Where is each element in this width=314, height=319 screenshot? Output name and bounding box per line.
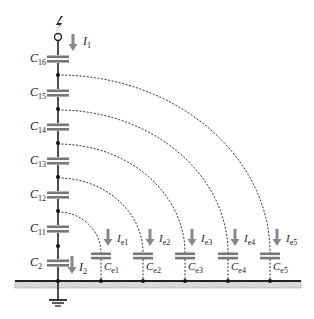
label-i1: I1 bbox=[82, 34, 91, 50]
node-dot bbox=[56, 279, 60, 283]
label-ce2: Ce2 bbox=[146, 260, 161, 275]
label-ie4: Ie4 bbox=[243, 232, 255, 247]
capacitor-c15 bbox=[47, 89, 69, 97]
capacitor-c12 bbox=[47, 191, 69, 199]
node-dot bbox=[268, 279, 272, 283]
label-c12: C12 bbox=[30, 187, 46, 203]
label-ce1: Ce1 bbox=[104, 260, 119, 275]
node-dot bbox=[56, 244, 60, 248]
capacitor-c14 bbox=[47, 123, 69, 131]
current-arrow-ie2 bbox=[146, 229, 155, 246]
ground-capacitor-ce1: Ie1Ce1 bbox=[58, 212, 128, 283]
label-c2: C2 bbox=[30, 255, 42, 271]
node-dot bbox=[99, 279, 103, 283]
ground-capacitor-ce5: Ie5Ce5 bbox=[58, 75, 297, 283]
current-arrow-ie3 bbox=[188, 229, 197, 246]
label-i2: I2 bbox=[78, 260, 87, 276]
current-arrow-ie1 bbox=[104, 229, 113, 246]
ground-capacitor-ce4: Ie4Ce4 bbox=[58, 110, 255, 283]
lightning-icon bbox=[55, 16, 64, 41]
capacitor-network-diagram: I1 C16C15C14C13C12C11C2 I2 Ie1Ce1Ie2Ce2I… bbox=[0, 0, 314, 319]
label-c15: C15 bbox=[30, 85, 46, 101]
label-ie1: Ie1 bbox=[116, 232, 128, 247]
capacitor-c16 bbox=[47, 55, 69, 63]
ground-icon bbox=[49, 300, 67, 306]
label-c13: C13 bbox=[30, 153, 46, 169]
current-arrow-ie4 bbox=[231, 229, 240, 246]
label-ie5: Ie5 bbox=[285, 232, 297, 247]
series-capacitors: C16C15C14C13C12C11C2 bbox=[30, 51, 69, 271]
capacitor-c13 bbox=[47, 157, 69, 165]
current-arrow-ie5 bbox=[273, 229, 282, 246]
coupling-arc bbox=[58, 178, 143, 253]
label-ie2: Ie2 bbox=[158, 232, 170, 247]
current-arrow-i1 bbox=[69, 34, 78, 51]
coupling-arc bbox=[58, 75, 270, 253]
node-dot bbox=[226, 279, 230, 283]
node-dot bbox=[183, 279, 187, 283]
label-c14: C14 bbox=[30, 119, 46, 135]
label-c16: C16 bbox=[30, 51, 46, 67]
label-ce3: Ce3 bbox=[188, 260, 203, 275]
coupling-arc bbox=[58, 144, 185, 253]
capacitor-c11 bbox=[47, 225, 69, 233]
ground-capacitors: Ie1Ce1Ie2Ce2Ie3Ce3Ie4Ce4Ie5Ce5 bbox=[58, 75, 297, 283]
label-c11: C11 bbox=[30, 221, 46, 237]
label-ce5: Ce5 bbox=[273, 260, 288, 275]
label-ce4: Ce4 bbox=[231, 260, 246, 275]
node-dot bbox=[141, 279, 145, 283]
label-ie3: Ie3 bbox=[200, 232, 212, 247]
capacitor-c2 bbox=[47, 259, 69, 267]
